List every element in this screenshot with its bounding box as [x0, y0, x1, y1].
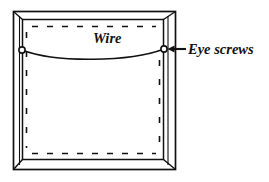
wire-label: Wire [93, 30, 122, 46]
miter-bottom-left [14, 160, 23, 170]
frame-wire-diagram: Wire Eye screws [0, 0, 269, 182]
wire [22, 49, 164, 59]
eye-screw-right-ring [161, 46, 167, 52]
eye-screws-label: Eye screws [187, 41, 254, 57]
miter-bottom-right [164, 160, 176, 170]
eye-screw-right [161, 46, 167, 52]
figure-canvas: Wire Eye screws [0, 0, 269, 182]
eye-screw-left [19, 47, 25, 53]
wire-curve [22, 49, 164, 59]
miter-top-left [14, 12, 23, 20]
eye-screw-left-ring [19, 47, 25, 53]
miter-top-right [164, 12, 176, 20]
leader-arrow [168, 46, 187, 53]
